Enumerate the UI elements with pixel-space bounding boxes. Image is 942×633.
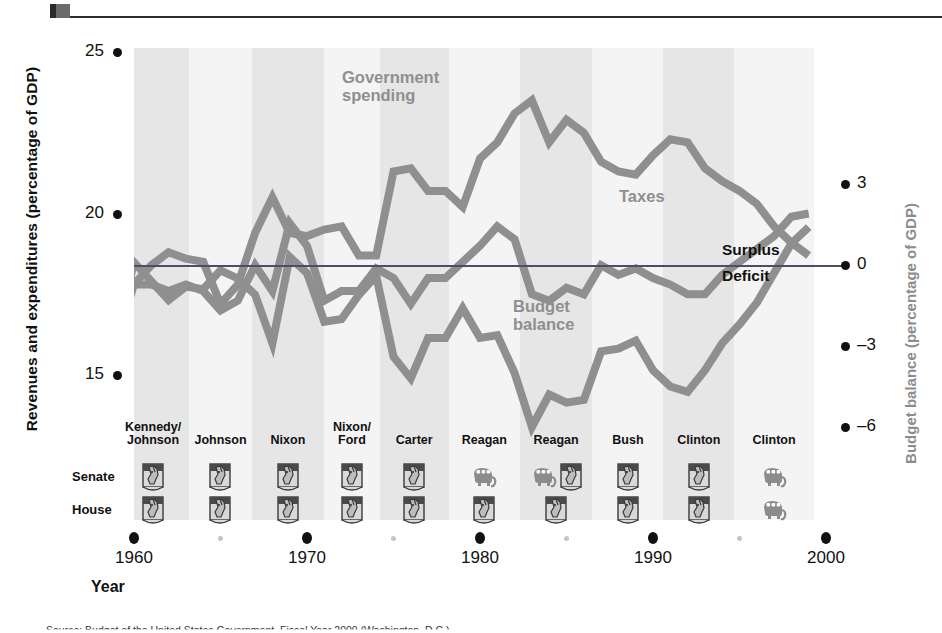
y-axis-right-tick-dot (841, 261, 850, 270)
x-axis-tick-dot (129, 532, 139, 544)
congress-control-cell (380, 495, 449, 525)
x-axis-tick-dot (648, 532, 658, 544)
y-axis-left-tick-label: 20 (64, 203, 104, 223)
president-label: Clinton (734, 434, 814, 447)
elephant-icon (760, 465, 788, 489)
congress-control-cell (117, 462, 190, 492)
president-label: Clinton (663, 434, 734, 447)
president-label: Bush (592, 434, 663, 447)
y-axis-left-tick-label: 15 (64, 364, 104, 384)
y-axis-left-tick-dot (113, 210, 122, 219)
y-axis-right-tick-dot (841, 342, 850, 351)
y-axis-left-tick-dot (113, 48, 122, 57)
y-axis-left-tick-label: 25 (64, 41, 104, 61)
donkey-icon (616, 463, 640, 491)
president-label: Reagan (449, 434, 520, 447)
president-label: Johnson (189, 434, 251, 447)
president-label: Nixon/Ford (324, 421, 379, 447)
elephant-icon (470, 465, 498, 489)
president-label: Kennedy/Johnson (117, 421, 190, 447)
donkey-icon (208, 463, 232, 491)
header-rule (56, 16, 942, 18)
y-axis-right-tick-label: –3 (857, 335, 887, 355)
donkey-icon (687, 463, 711, 491)
congress-control-cell (734, 462, 814, 492)
annotation-surplus: Surplus (722, 241, 780, 259)
x-axis-tick-label: 1960 (104, 548, 164, 568)
congress-control-cell (252, 462, 325, 492)
x-axis-tick-dot (821, 532, 831, 544)
congress-control-cell (520, 495, 593, 525)
president-label: Carter (380, 434, 449, 447)
x-axis-tick-label: 1970 (277, 548, 337, 568)
y-axis-right-tick-label: –6 (857, 416, 887, 436)
donkey-icon (141, 496, 165, 524)
x-axis-title: Year (91, 578, 125, 596)
congress-control-cell (449, 495, 520, 525)
x-axis-minor-tick-dot (737, 536, 742, 541)
y-axis-right-tick-label: 0 (857, 254, 887, 274)
congress-row-label: House (72, 502, 112, 517)
president-label: Reagan (520, 434, 593, 447)
y-axis-right-tick-label: 3 (857, 173, 887, 193)
x-axis-tick-label: 2000 (796, 548, 856, 568)
congress-control-cell (663, 462, 734, 492)
president-label: Nixon (252, 434, 325, 447)
header-marker (50, 4, 70, 18)
congress-control-cell (663, 495, 734, 525)
elephant-icon (760, 498, 788, 522)
donkey-icon (340, 496, 364, 524)
donkey-icon (559, 463, 583, 491)
y-axis-right-tick-dot (841, 423, 850, 432)
congress-control-cell (324, 495, 379, 525)
annotation-deficit: Deficit (722, 267, 769, 285)
donkey-icon (276, 496, 300, 524)
donkey-icon (276, 463, 300, 491)
elephant-icon (530, 465, 558, 489)
donkey-icon (544, 496, 568, 524)
congress-control-cell (117, 495, 190, 525)
congress-control-cell (520, 462, 593, 492)
x-axis-minor-tick-dot (391, 536, 396, 541)
source-note: Source: Budget of the United States Gove… (46, 624, 450, 633)
x-axis-minor-tick-dot (564, 536, 569, 541)
donkey-icon (208, 496, 232, 524)
donkey-icon (616, 496, 640, 524)
x-axis-tick-label: 1980 (450, 548, 510, 568)
donkey-icon (141, 463, 165, 491)
donkey-icon (402, 496, 426, 524)
donkey-icon (402, 463, 426, 491)
congress-control-cell (380, 462, 449, 492)
congress-row-label: Senate (72, 469, 115, 484)
congress-control-cell (324, 462, 379, 492)
congress-control-cell (734, 495, 814, 525)
y-axis-right-title: Budget balance (percentage of GDP) (902, 124, 919, 544)
donkey-icon (687, 496, 711, 524)
congress-control-cell (592, 495, 663, 525)
donkey-icon (472, 496, 496, 524)
congress-control-cell (189, 495, 251, 525)
x-axis-tick-dot (475, 532, 485, 544)
congress-control-cell (449, 462, 520, 492)
annotation-taxes: Taxes (619, 187, 665, 205)
annotation-budget-balance: Budgetbalance (513, 297, 574, 334)
y-axis-right-tick-dot (841, 180, 850, 189)
annotation-government-spending: Governmentspending (342, 68, 439, 105)
y-axis-left-title: Revenues and expenditures (percentage of… (23, 29, 41, 469)
x-axis-tick-dot (302, 532, 312, 544)
y-axis-left-tick-dot (113, 371, 122, 380)
congress-control-cell (189, 462, 251, 492)
x-axis-minor-tick-dot (218, 536, 223, 541)
x-axis-tick-label: 1990 (623, 548, 683, 568)
donkey-icon (340, 463, 364, 491)
congress-control-cell (592, 462, 663, 492)
congress-control-cell (252, 495, 325, 525)
